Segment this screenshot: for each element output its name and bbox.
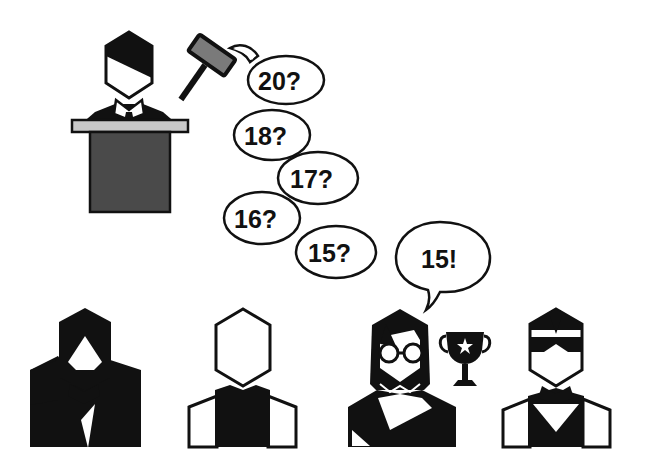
bid-label: 15? (308, 239, 351, 267)
gavel-icon (163, 34, 236, 112)
reply-label: 15! (421, 245, 457, 273)
bidder-glasses-winner (348, 309, 456, 447)
bidder-bearded (30, 308, 141, 448)
bidder-plain (189, 309, 296, 447)
bid-label: 18? (244, 122, 287, 150)
auction-illustration: 20? 18? 17? 16? 15? 15! (0, 0, 648, 473)
winner-reply-bubble: 15! (396, 222, 490, 310)
bid-label: 16? (234, 205, 277, 233)
auctioneer-bid-bubbles: 20? 18? 17? 16? 15? (224, 45, 376, 278)
bid-label: 17? (290, 165, 333, 193)
trophy-icon (440, 332, 490, 386)
bid-label: 20? (258, 67, 301, 95)
auctioneer (72, 32, 188, 212)
bidder-masked (503, 309, 610, 447)
